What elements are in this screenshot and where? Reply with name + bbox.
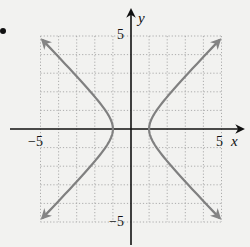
y-axis-label: y <box>136 10 145 26</box>
y-max-label: 5 <box>117 27 124 42</box>
x-axis-label: x <box>230 133 238 149</box>
y-min-label: −5 <box>109 214 124 229</box>
x-min-label: −5 <box>28 134 43 149</box>
x-max-label: 5 <box>216 134 223 149</box>
hyperbola-graph: y x 5 −5 −5 5 <box>0 0 250 247</box>
axes <box>10 10 243 245</box>
axis-labels: y x 5 −5 −5 5 <box>28 10 238 229</box>
